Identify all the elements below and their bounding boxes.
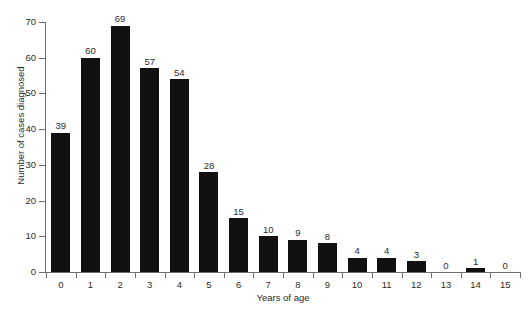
- bar-slot: 57: [135, 22, 165, 272]
- x-tick-label: 15: [490, 280, 520, 290]
- bar-slot: 8: [313, 22, 343, 272]
- bar-slot: 3: [402, 22, 432, 272]
- bar-slot: 9: [283, 22, 313, 272]
- bar-slot: 0: [431, 22, 461, 272]
- x-tick: [313, 273, 314, 278]
- bar-value-label: 54: [174, 68, 185, 78]
- x-tick-label: 1: [76, 280, 106, 290]
- y-tick-label: 70: [4, 17, 36, 27]
- bar-value-label: 57: [144, 57, 155, 67]
- bar: 8: [318, 243, 337, 272]
- x-tick: [520, 273, 521, 278]
- x-tick: [46, 273, 47, 278]
- bar: 57: [140, 68, 159, 272]
- x-axis-title: Years of age: [46, 292, 520, 303]
- bar-value-label: 28: [204, 161, 215, 171]
- bar: 54: [170, 79, 189, 272]
- x-tick: [461, 273, 462, 278]
- x-tick-label: 0: [46, 280, 76, 290]
- bar: 39: [51, 133, 70, 272]
- bar: 28: [199, 172, 218, 272]
- x-tick-label: 12: [402, 280, 432, 290]
- x-tick-label: 2: [105, 280, 135, 290]
- bar-slot: 1: [461, 22, 491, 272]
- bar-value-label: 4: [384, 246, 389, 256]
- bar: 4: [377, 258, 396, 272]
- bar-slot: 4: [342, 22, 372, 272]
- x-tick: [165, 273, 166, 278]
- bar-value-label: 60: [85, 46, 96, 56]
- bar-value-label: 0: [443, 261, 448, 271]
- bar-value-label: 9: [295, 228, 300, 238]
- bar-value-label: 8: [325, 232, 330, 242]
- y-tick-label: 60: [4, 53, 36, 63]
- bar-slot: 69: [105, 22, 135, 272]
- bar: 10: [259, 236, 278, 272]
- x-tick: [135, 273, 136, 278]
- x-tick: [372, 273, 373, 278]
- bar-slot: 10: [253, 22, 283, 272]
- bar-slot: 60: [76, 22, 106, 272]
- bar: 3: [407, 261, 426, 272]
- x-tick: [194, 273, 195, 278]
- x-tick: [283, 273, 284, 278]
- bar: 9: [288, 240, 307, 272]
- bar-slot: 4: [372, 22, 402, 272]
- x-tick-label: 8: [283, 280, 313, 290]
- x-tick-label: 6: [224, 280, 254, 290]
- bar-chart: Number of cases diagnosed 01020304050607…: [0, 0, 529, 315]
- bar-slot: 54: [165, 22, 195, 272]
- x-tick: [253, 273, 254, 278]
- x-axis-tick-labels: 0123456789101112131415: [46, 280, 520, 290]
- bar-slot: 39: [46, 22, 76, 272]
- bar-slot: 15: [224, 22, 254, 272]
- bar: 69: [111, 26, 130, 272]
- bar: 15: [229, 218, 248, 272]
- bar-value-label: 15: [233, 207, 244, 217]
- y-tick-label: 40: [4, 124, 36, 134]
- x-tick: [342, 273, 343, 278]
- y-tick-label: 30: [4, 160, 36, 170]
- x-tick: [224, 273, 225, 278]
- bar-value-label: 3: [414, 250, 419, 260]
- x-tick: [105, 273, 106, 278]
- x-tick-label: 5: [194, 280, 224, 290]
- x-tick: [76, 273, 77, 278]
- bar: 1: [466, 268, 485, 272]
- y-tick-label: 50: [4, 88, 36, 98]
- bar-value-label: 4: [354, 246, 359, 256]
- y-tick-label: 20: [4, 196, 36, 206]
- bar: 4: [348, 258, 367, 272]
- bar-series: 396069575428151098443010: [46, 22, 520, 272]
- x-tick: [431, 273, 432, 278]
- bar-slot: 0: [490, 22, 520, 272]
- x-tick-label: 11: [372, 280, 402, 290]
- x-tick-label: 4: [165, 280, 195, 290]
- bar-value-label: 0: [503, 261, 508, 271]
- bar: 60: [81, 58, 100, 272]
- x-tick-label: 3: [135, 280, 165, 290]
- x-tick-label: 7: [253, 280, 283, 290]
- x-tick: [490, 273, 491, 278]
- bar-value-label: 69: [115, 14, 126, 24]
- y-tick-label: 10: [4, 231, 36, 241]
- x-tick-label: 9: [313, 280, 343, 290]
- x-tick: [402, 273, 403, 278]
- x-tick-label: 13: [431, 280, 461, 290]
- y-tick-label: 0: [4, 267, 36, 277]
- bar-slot: 28: [194, 22, 224, 272]
- bar-value-label: 1: [473, 257, 478, 267]
- bar-value-label: 10: [263, 225, 274, 235]
- y-axis-ticks: 010203040506070: [0, 0, 46, 315]
- bar-value-label: 39: [56, 121, 67, 131]
- x-tick-label: 10: [342, 280, 372, 290]
- x-tick-label: 14: [461, 280, 491, 290]
